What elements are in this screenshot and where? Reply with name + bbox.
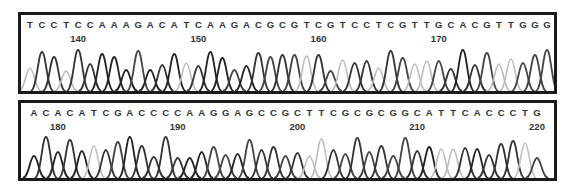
base-call: G: [402, 107, 409, 118]
base-call: T: [376, 19, 382, 30]
base-call: C: [447, 19, 454, 30]
base-call: C: [510, 107, 517, 118]
base-call: C: [87, 19, 94, 30]
position-label: 180: [50, 121, 66, 132]
base-call: G: [390, 107, 397, 118]
base-sequence-1: TCCTCCAAAGACATCAAGACGCGTCGTCCTCGTTGCACGT…: [21, 19, 554, 31]
base-call: C: [150, 107, 157, 118]
base-call: G: [327, 19, 334, 30]
base-call: C: [279, 19, 286, 30]
base-call: T: [319, 107, 325, 118]
base-call: A: [99, 19, 106, 30]
trace-peak: [526, 158, 549, 178]
trace-peak: [536, 50, 554, 91]
base-call: C: [378, 107, 385, 118]
base-call: A: [78, 107, 85, 118]
base-call: C: [39, 19, 46, 30]
base-call: C: [330, 107, 337, 118]
base-call: T: [27, 19, 33, 30]
base-call: A: [219, 19, 226, 30]
base-call: C: [270, 107, 277, 118]
base-call: A: [147, 19, 154, 30]
base-call: G: [543, 19, 550, 30]
base-call: G: [342, 107, 349, 118]
base-call: C: [51, 19, 58, 30]
base-call: C: [498, 107, 505, 118]
chromatogram-panel-1: TCCTCCAAAGACATCAAGACGCGTCGTCCTCGTTGCACGT…: [18, 12, 557, 94]
base-call: T: [307, 107, 313, 118]
trace-peak: [21, 68, 41, 91]
trace-peak: [451, 50, 474, 91]
base-call: C: [162, 107, 169, 118]
trace-peak: [295, 56, 318, 91]
base-call: A: [123, 19, 130, 30]
base-call: G: [282, 107, 289, 118]
base-call: A: [171, 19, 178, 30]
base-call: T: [522, 107, 528, 118]
base-call: C: [195, 19, 202, 30]
base-call: C: [43, 107, 50, 118]
base-call: C: [471, 19, 478, 30]
trace-peak: [103, 57, 126, 91]
base-call: G: [533, 107, 540, 118]
trace-plot-2: [21, 128, 554, 178]
base-call: G: [291, 19, 298, 30]
trace-peak: [346, 138, 369, 178]
trace-peak: [514, 143, 537, 178]
base-call: G: [222, 107, 229, 118]
trace-peak: [442, 149, 465, 178]
base-call: G: [267, 19, 274, 30]
base-call: T: [91, 107, 97, 118]
base-call: A: [207, 19, 214, 30]
base-call: G: [483, 19, 490, 30]
base-call: A: [126, 107, 133, 118]
base-call: T: [424, 19, 430, 30]
base-call: A: [459, 19, 466, 30]
base-call: T: [412, 19, 418, 30]
base-call: C: [255, 19, 262, 30]
trace-peak: [35, 137, 58, 178]
base-call: C: [462, 107, 469, 118]
base-call: C: [387, 19, 394, 30]
base-call: T: [304, 19, 310, 30]
chromatogram-panel-2: ACACATCGACCCCAAGGAGCCGCTTCGCGCGGCATTCACC…: [18, 100, 557, 181]
base-call: C: [354, 107, 361, 118]
base-call: G: [114, 107, 121, 118]
base-call: G: [135, 19, 142, 30]
base-call: A: [243, 19, 250, 30]
base-sequence-2: ACACATCGACCCCAAGGAGCCGCTTCGCGCGGCATTCACC…: [21, 107, 554, 119]
position-label: 160: [311, 33, 327, 44]
base-call: A: [111, 19, 118, 30]
base-call: G: [231, 19, 238, 30]
base-call: A: [186, 107, 193, 118]
base-call: C: [102, 107, 109, 118]
base-call: T: [340, 19, 346, 30]
base-call: A: [426, 107, 433, 118]
position-label: 140: [70, 33, 86, 44]
base-call: G: [519, 19, 526, 30]
base-call: G: [399, 19, 406, 30]
base-call: A: [234, 107, 241, 118]
trace-plot-1: [21, 41, 554, 91]
base-call: A: [31, 107, 38, 118]
base-call: C: [174, 107, 181, 118]
trace-peak: [154, 137, 177, 178]
base-call: T: [450, 107, 456, 118]
base-call: T: [508, 19, 514, 30]
base-call: C: [351, 19, 358, 30]
base-call: C: [75, 19, 82, 30]
trace-peak: [23, 156, 46, 178]
base-call: G: [246, 107, 253, 118]
trace-peak: [343, 63, 366, 91]
position-label: 210: [409, 121, 425, 132]
position-label: 170: [431, 33, 447, 44]
base-call: G: [435, 19, 442, 30]
base-call: G: [531, 19, 538, 30]
base-call: C: [315, 19, 322, 30]
position-label: 200: [290, 121, 306, 132]
base-call: T: [183, 19, 189, 30]
base-call: G: [210, 107, 217, 118]
base-call: T: [438, 107, 444, 118]
base-call: A: [474, 107, 481, 118]
base-call: A: [198, 107, 205, 118]
